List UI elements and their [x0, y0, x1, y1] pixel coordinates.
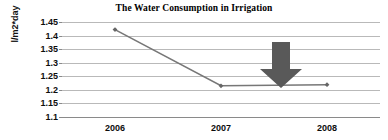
data-point-marker: [325, 82, 330, 87]
x-tick-label: 2007: [211, 123, 231, 133]
gridline: [62, 117, 380, 118]
x-tick-label: 2006: [105, 123, 125, 133]
chart-container: The Water Consumption in Irrigation l/m2…: [0, 0, 388, 140]
down-arrow-annotation: [258, 42, 304, 89]
y-tick-label: 1.3: [45, 58, 58, 68]
y-tick-label: 1.35: [40, 44, 58, 54]
series-layer: [62, 22, 380, 117]
y-tick-label: 1.2: [45, 85, 58, 95]
y-tick-label: 1.1: [45, 112, 58, 122]
arrow-shape: [260, 42, 302, 88]
y-tick-label: 1.25: [40, 71, 58, 81]
y-tick-label: 1.4: [45, 31, 58, 41]
y-tick-mark: [59, 117, 62, 118]
chart-title: The Water Consumption in Irrigation: [0, 3, 388, 13]
y-axis-title: l/m2*day: [8, 0, 22, 54]
y-tick-label: 1.45: [40, 17, 58, 27]
y-tick-label: 1.15: [40, 98, 58, 108]
x-tick-label: 2008: [317, 123, 337, 133]
plot-area: 1.451.41.351.31.251.21.151.1 20062007200…: [62, 22, 380, 117]
